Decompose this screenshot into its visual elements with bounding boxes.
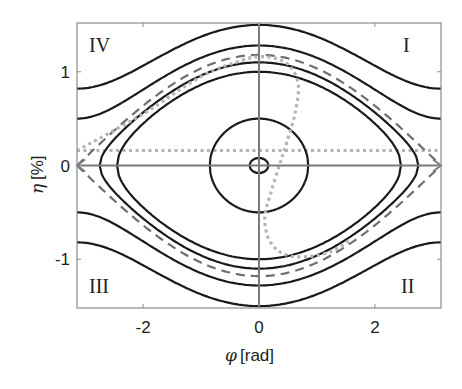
x-axis-label: φ [rad] [225,345,274,365]
x-tick-label: 2 [370,318,379,337]
x-axis-unit: [rad] [240,346,274,365]
quadrant-label-I: I [403,34,410,56]
x-tick-label: 0 [254,318,263,337]
quadrant-label-III: III [89,275,109,297]
y-tick-label: 1 [61,63,70,82]
quadrant-label-II: II [401,275,414,297]
y-axis-label: η [%] [27,155,47,194]
phase-portrait-chart: -202-101 IV I III II φ [rad] η [%] [0,0,462,389]
x-tick-label: -2 [136,318,151,337]
y-tick-label: 0 [61,157,70,176]
quadrant-label-IV: IV [89,34,111,56]
y-tick-label: -1 [55,250,70,269]
y-axis-unit: [%] [28,155,47,180]
x-axis-symbol: φ [225,345,237,365]
origin-axes [77,23,441,308]
y-axis-symbol: η [27,183,47,194]
